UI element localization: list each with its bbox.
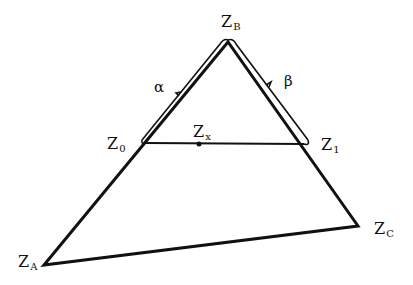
label-zb: ZB: [221, 14, 240, 32]
segment-z0-z1: [146, 143, 304, 144]
outer-triangle: [44, 42, 358, 265]
label-zc: ZC: [374, 221, 394, 239]
point-zx: [197, 142, 202, 147]
label-za: ZA: [18, 254, 37, 272]
label-beta: β: [284, 74, 293, 89]
label-z1: Z1: [321, 137, 340, 155]
label-alpha: α: [154, 80, 164, 95]
label-z0: Z0: [107, 136, 126, 154]
beta-brace-inner: [304, 140, 309, 145]
beta-brace: [228, 40, 308, 141]
label-zx: Zx: [193, 124, 211, 142]
triangle-diagram: [0, 0, 413, 285]
